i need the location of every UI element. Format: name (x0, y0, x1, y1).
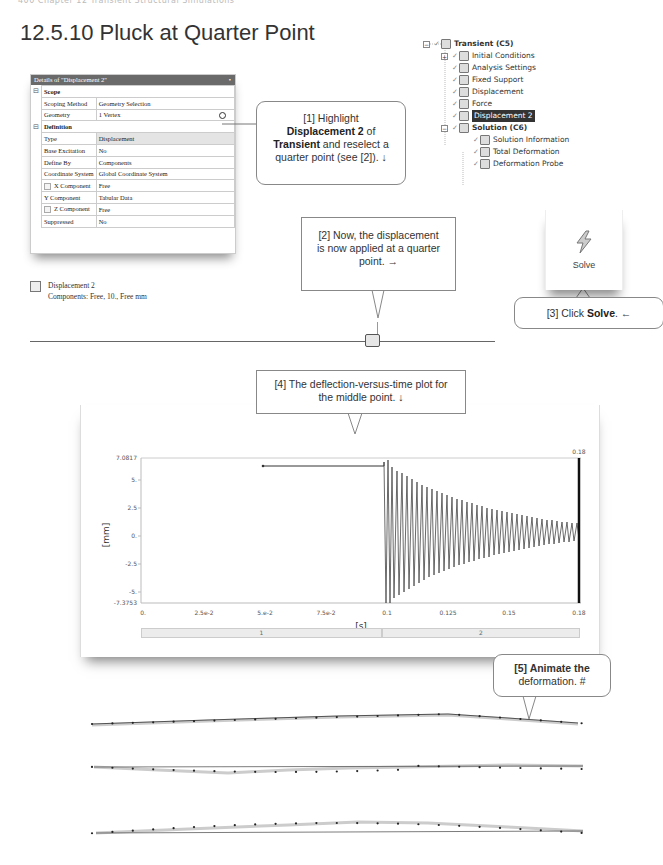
mesh-node (499, 767, 501, 769)
mesh-node (356, 770, 358, 772)
mesh-node (560, 768, 562, 770)
mesh-node (152, 721, 154, 723)
mesh-node (438, 713, 440, 715)
mesh-node (275, 771, 277, 773)
mesh-node (213, 825, 215, 827)
mesh-node (397, 823, 399, 825)
animation-frames (88, 700, 588, 850)
mesh-node (152, 768, 154, 770)
mesh-node (417, 714, 419, 716)
callout-step-5: [5] Animate the deformation. # (493, 654, 611, 697)
mesh-node (111, 831, 113, 833)
mesh-node (519, 828, 521, 830)
mesh-node (234, 824, 236, 826)
callout-line: deformation. # (494, 675, 610, 688)
mesh-node (152, 828, 154, 830)
mesh-node (377, 715, 379, 717)
mesh-node (581, 832, 583, 834)
mesh-node (581, 768, 583, 770)
mesh-node (336, 716, 338, 718)
mesh-node (132, 722, 134, 724)
mesh-node (540, 719, 542, 721)
mesh-node (540, 767, 542, 769)
mesh-node (315, 717, 317, 719)
mesh-node (193, 720, 195, 722)
mesh-node (356, 715, 358, 717)
mesh-node (213, 770, 215, 772)
mesh-node (315, 771, 317, 773)
mesh-node (193, 770, 195, 772)
mesh-node (336, 770, 338, 772)
mesh-node (234, 719, 236, 721)
mesh-node (438, 765, 440, 767)
mesh-node (479, 766, 481, 768)
mesh-node (132, 767, 134, 769)
mesh-node (234, 771, 236, 773)
mesh-node (581, 722, 583, 724)
mesh-node (275, 823, 277, 825)
mesh-node (540, 829, 542, 831)
mesh-node (254, 771, 256, 773)
mesh-node (397, 714, 399, 716)
mesh-node (173, 827, 175, 829)
mesh-node (519, 718, 521, 720)
mesh-node (499, 827, 501, 829)
mesh-node (213, 719, 215, 721)
mesh-node (315, 822, 317, 824)
mesh-node (458, 825, 460, 827)
mesh-node (193, 826, 195, 828)
mesh-node (479, 715, 481, 717)
mesh-node (519, 767, 521, 769)
mesh-node (560, 830, 562, 832)
mesh-node (173, 769, 175, 771)
mesh-node (417, 823, 419, 825)
animation-frame-3 (96, 822, 583, 833)
mesh-node (397, 769, 399, 771)
mesh-node (173, 721, 175, 723)
mesh-node (111, 722, 113, 724)
mesh-node (295, 717, 297, 719)
animation-frame-2 (94, 765, 583, 773)
callout-line: [5] Animate the (494, 662, 610, 675)
mesh-node (254, 718, 256, 720)
animation-frame-1 (92, 714, 578, 725)
mesh-node (356, 822, 358, 824)
mesh-node (377, 822, 379, 824)
mesh-node (111, 767, 113, 769)
mesh-node (254, 823, 256, 825)
mesh-node (91, 832, 93, 834)
mesh-node (560, 721, 562, 723)
mesh-node (295, 822, 297, 824)
mesh-node (275, 718, 277, 720)
mesh-node (91, 723, 93, 725)
mesh-node (91, 766, 93, 768)
mesh-node (295, 771, 297, 773)
mesh-node (132, 830, 134, 832)
mesh-node (417, 765, 419, 767)
mesh-node (479, 826, 481, 828)
mesh-node (499, 717, 501, 719)
mesh-node (458, 766, 460, 768)
mesh-node (438, 824, 440, 826)
mesh-node (458, 714, 460, 716)
mesh-node (336, 822, 338, 824)
mesh-node (377, 769, 379, 771)
